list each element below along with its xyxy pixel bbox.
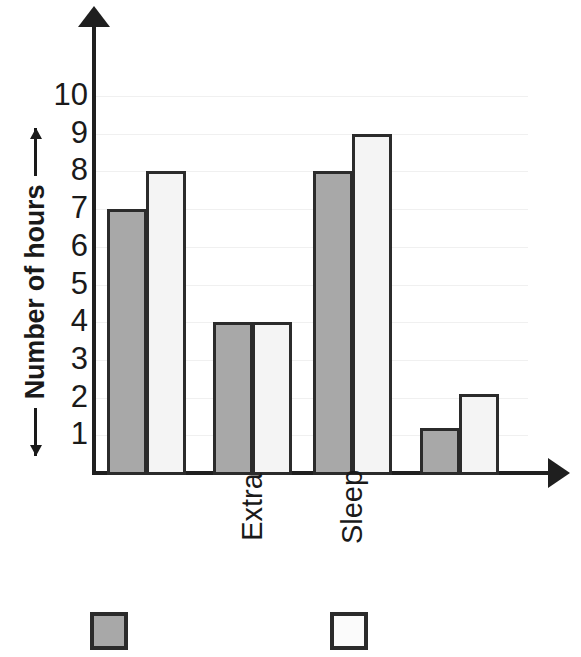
bar-group-3-series-2 — [352, 134, 392, 475]
bar-group-1-series-2 — [146, 171, 186, 475]
legend-swatch-gray — [90, 612, 128, 650]
bar-group-4-series-1 — [420, 428, 460, 475]
bar-group-3-series-1 — [313, 171, 353, 475]
legend-swatch-white — [330, 612, 368, 650]
bar-group-4-series-2 — [459, 394, 499, 475]
x-tick-sleep: Sleep — [337, 447, 367, 567]
chart-legend — [0, 612, 581, 657]
bar-chart: Number of hours 12345678910 ExtraSleep — [0, 0, 581, 657]
bar-group-1-series-1 — [107, 209, 147, 475]
x-tick-extra: Extra — [237, 447, 267, 567]
plot-area — [0, 0, 581, 475]
